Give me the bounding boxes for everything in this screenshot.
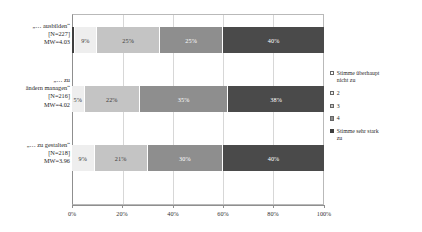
legend-item-2: 2 (330, 90, 422, 97)
x-tick-0 (72, 205, 73, 208)
x-tick-100 (324, 205, 325, 208)
bar-segment-1-4: 25% (160, 27, 223, 53)
x-tick-40 (173, 205, 174, 208)
legend-item-1: Stimme überhaupt nicht zu (330, 70, 422, 85)
bar-row-2: 5% 22% 35% 38% (72, 86, 324, 112)
legend-swatch-2-icon (330, 91, 334, 95)
legend-item-5: Stimme sehr stark zu (330, 128, 422, 143)
legend-item-4: 4 (330, 115, 422, 122)
category-label-3-line1: „… zu gestalten“ (4, 141, 70, 149)
bar-segment-3-3: 21% (95, 145, 148, 171)
bar-segment-1-3: 25% (97, 27, 160, 53)
legend-label-4: 4 (337, 115, 340, 122)
x-axis-label-0: 0% (68, 210, 76, 217)
x-axis-label-40: 40% (167, 210, 178, 217)
category-label-1-line2: [N=227] (4, 30, 70, 38)
legend-swatch-1-icon (330, 71, 334, 75)
legend-swatch-5-icon (330, 129, 334, 133)
x-axis-label-100: 100% (317, 210, 331, 217)
category-label-2-line2: ändern managen“ (4, 84, 70, 92)
bars-layer: 9% 25% 25% 40% 5% 22% 35% 38% 9% 21% 30%… (72, 14, 324, 205)
bar-segment-3-5: 40% (223, 145, 324, 171)
bar-segment-2-3: 22% (85, 86, 140, 112)
bar-segment-3-2: 9% (72, 145, 95, 171)
bar-segment-3-4: 30% (148, 145, 224, 171)
legend-label-3: 3 (337, 103, 340, 110)
legend-label-2: 2 (337, 90, 340, 97)
category-label-2: „… zu ändern managen“ [N=216] MW=4.02 (4, 76, 70, 109)
chart-container: „… ausbilden“ [N=227] MW=4.03 „… zu ände… (0, 0, 422, 232)
bar-segment-2-4: 35% (140, 86, 228, 112)
category-label-3: „… zu gestalten“ [N=218] MW=3.96 (4, 141, 70, 166)
x-tick-60 (223, 205, 224, 208)
category-label-2-line3: [N=216] (4, 92, 70, 100)
x-axis-label-80: 80% (267, 210, 278, 217)
legend-swatch-4-icon (330, 116, 334, 120)
chart-legend: Stimme überhaupt nicht zu 2 3 4 Stimme s… (330, 70, 422, 148)
category-label-2-line4: MW=4.02 (4, 101, 70, 109)
x-tick-20 (122, 205, 123, 208)
category-label-1-line3: MW=4.03 (4, 38, 70, 46)
bar-segment-2-5: 38% (228, 86, 324, 112)
legend-swatch-3-icon (330, 104, 334, 108)
bar-segment-2-2: 5% (72, 86, 85, 112)
category-label-1: „… ausbilden“ [N=227] MW=4.03 (4, 22, 70, 47)
category-label-3-line3: MW=3.96 (4, 157, 70, 165)
x-tick-80 (273, 205, 274, 208)
legend-item-3: 3 (330, 103, 422, 110)
legend-label-1: Stimme überhaupt nicht zu (337, 70, 380, 85)
x-axis-label-60: 60% (217, 210, 228, 217)
bar-row-3: 9% 21% 30% 40% (72, 145, 324, 171)
x-axis-label-20: 20% (116, 210, 127, 217)
bar-segment-1-2: 9% (75, 27, 98, 53)
legend-label-5: Stimme sehr stark zu (337, 128, 379, 143)
x-axis-line (72, 205, 324, 206)
category-label-3-line2: [N=218] (4, 149, 70, 157)
category-label-1-line1: „… ausbilden“ (4, 22, 70, 30)
bar-row-1: 9% 25% 25% 40% (72, 27, 324, 53)
bar-segment-1-5: 40% (223, 27, 324, 53)
category-label-2-line1: „… zu (4, 76, 70, 84)
